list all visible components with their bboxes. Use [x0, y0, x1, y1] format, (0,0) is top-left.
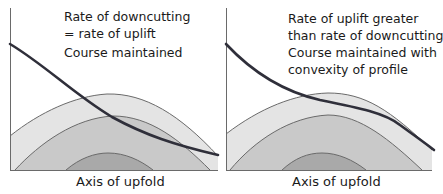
panel-left: Rate of downcutting = rate of uplift Cou… [0, 0, 220, 194]
left-title: Rate of downcutting = rate of uplift [64, 8, 190, 42]
left-axis-label: Axis of upfold [76, 174, 165, 189]
right-title: Rate of uplift greater than rate of down… [288, 10, 443, 78]
right-axis-label: Axis of upfold [292, 174, 381, 189]
left-caption: Course maintained [64, 44, 182, 61]
panel-right: Rate of uplift greater than rate of down… [220, 0, 441, 194]
